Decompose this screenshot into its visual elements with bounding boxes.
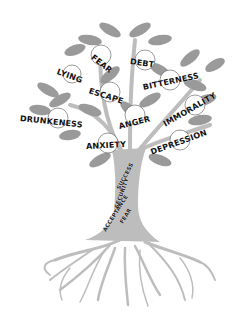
tree-illustration (0, 0, 246, 314)
roots (45, 240, 215, 306)
